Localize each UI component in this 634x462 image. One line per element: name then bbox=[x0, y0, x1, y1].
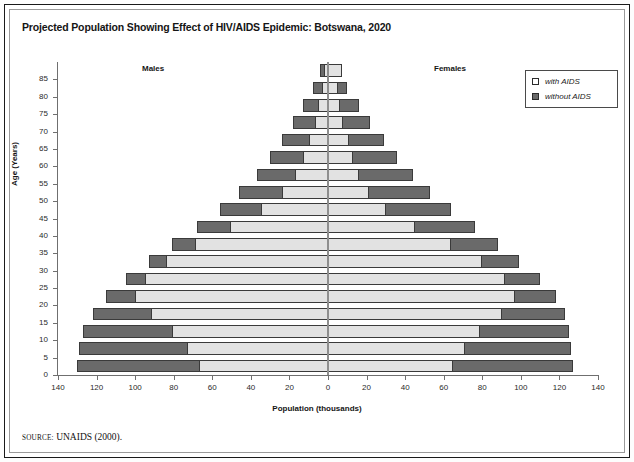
y-tick-label: 30 bbox=[22, 267, 48, 275]
y-tick-mark bbox=[53, 340, 57, 341]
bar-male-with-aids bbox=[261, 203, 329, 216]
y-axis-title: Age (Years) bbox=[10, 142, 19, 186]
bar-female-with-aids bbox=[328, 325, 480, 338]
bar-male-with-aids bbox=[195, 238, 328, 251]
y-tick-label: 85 bbox=[22, 75, 48, 83]
bar-male-with-aids bbox=[309, 134, 328, 147]
bar-male-with-aids bbox=[282, 186, 328, 199]
y-tick-mark bbox=[53, 79, 57, 80]
x-tick-mark bbox=[328, 376, 329, 380]
bar-female-with-aids bbox=[328, 273, 505, 286]
y-tick-mark bbox=[53, 375, 57, 376]
source-text: UNAIDS (2000). bbox=[56, 432, 122, 442]
bar-male-with-aids bbox=[172, 325, 328, 338]
legend-swatch-without-aids-icon bbox=[532, 93, 539, 100]
x-tick-mark bbox=[521, 376, 522, 380]
x-tick-label: 80 bbox=[467, 383, 497, 392]
x-tick-label: 140 bbox=[583, 383, 613, 392]
y-tick-label: 45 bbox=[22, 215, 48, 223]
y-tick-label: 40 bbox=[22, 232, 48, 240]
x-tick-label: 60 bbox=[197, 383, 227, 392]
y-tick-mark bbox=[53, 236, 57, 237]
x-tick-label: 100 bbox=[506, 383, 536, 392]
bar-male-with-aids bbox=[151, 308, 328, 321]
y-tick-mark bbox=[53, 132, 57, 133]
y-tick-label: 80 bbox=[22, 93, 48, 101]
x-tick-mark bbox=[598, 376, 599, 380]
x-tick-mark bbox=[367, 376, 368, 380]
y-tick-mark bbox=[53, 288, 57, 289]
y-tick-label: 35 bbox=[22, 249, 48, 257]
y-tick-mark bbox=[53, 97, 57, 98]
chart-title: Projected Population Showing Effect of H… bbox=[22, 21, 391, 33]
x-tick-label: 140 bbox=[43, 383, 73, 392]
x-tick-label: 100 bbox=[120, 383, 150, 392]
y-tick-mark bbox=[53, 149, 57, 150]
x-tick-mark bbox=[251, 376, 252, 380]
x-tick-label: 60 bbox=[429, 383, 459, 392]
bar-female-with-aids bbox=[328, 186, 369, 199]
source-note: SOURCE: UNAIDS (2000). bbox=[22, 432, 122, 442]
bar-female-with-aids bbox=[328, 134, 349, 147]
bar-male-with-aids bbox=[145, 273, 328, 286]
y-tick-mark bbox=[53, 201, 57, 202]
x-tick-label: 80 bbox=[159, 383, 189, 392]
x-tick-label: 120 bbox=[544, 383, 574, 392]
legend-label-with-aids: with AIDS bbox=[545, 77, 580, 86]
x-tick-mark bbox=[559, 376, 560, 380]
source-keyword: SOURCE: bbox=[22, 434, 54, 442]
y-tick-label: 25 bbox=[22, 284, 48, 292]
y-tick-mark bbox=[53, 253, 57, 254]
x-tick-mark bbox=[58, 376, 59, 380]
x-tick-mark bbox=[212, 376, 213, 380]
figure-page: Projected Population Showing Effect of H… bbox=[0, 0, 634, 462]
y-tick-label: 15 bbox=[22, 319, 48, 327]
bar-male-with-aids bbox=[295, 169, 328, 182]
y-tick-mark bbox=[53, 184, 57, 185]
bar-male-with-aids bbox=[230, 221, 328, 234]
x-tick-mark bbox=[97, 376, 98, 380]
bar-male-with-aids bbox=[166, 255, 328, 268]
x-tick-label: 0 bbox=[313, 383, 343, 392]
y-tick-label: 55 bbox=[22, 180, 48, 188]
bar-female-with-aids bbox=[328, 82, 338, 95]
bar-female-with-aids bbox=[328, 203, 386, 216]
y-tick-label: 5 bbox=[22, 354, 48, 362]
bar-female-with-aids bbox=[328, 99, 340, 112]
center-axis-line bbox=[327, 62, 329, 375]
x-tick-mark bbox=[289, 376, 290, 380]
y-tick-label: 50 bbox=[22, 197, 48, 205]
bar-female-with-aids bbox=[328, 255, 482, 268]
x-tick-label: 40 bbox=[390, 383, 420, 392]
y-tick-mark bbox=[53, 271, 57, 272]
bar-male-with-aids bbox=[315, 116, 329, 129]
x-tick-mark bbox=[405, 376, 406, 380]
y-tick-label: 65 bbox=[22, 145, 48, 153]
y-tick-label: 10 bbox=[22, 336, 48, 344]
bar-female-with-aids bbox=[328, 360, 453, 373]
legend-item-with-aids: with AIDS bbox=[532, 77, 580, 86]
bar-female-with-aids bbox=[328, 308, 502, 321]
x-tick-label: 120 bbox=[82, 383, 112, 392]
bar-female-with-aids bbox=[328, 169, 359, 182]
y-tick-label: 0 bbox=[22, 371, 48, 379]
bar-female-with-aids bbox=[328, 290, 515, 303]
bar-female-with-aids bbox=[328, 238, 451, 251]
y-tick-label: 20 bbox=[22, 301, 48, 309]
bar-female-with-aids bbox=[328, 64, 342, 77]
x-tick-mark bbox=[482, 376, 483, 380]
y-tick-label: 75 bbox=[22, 110, 48, 118]
bar-male-with-aids bbox=[303, 151, 328, 164]
bar-female-with-aids bbox=[328, 116, 343, 129]
bar-male-with-aids bbox=[135, 290, 328, 303]
x-tick-mark bbox=[174, 376, 175, 380]
legend-item-without-aids: without AIDS bbox=[532, 92, 591, 101]
y-tick-mark bbox=[53, 358, 57, 359]
y-tick-mark bbox=[53, 305, 57, 306]
y-tick-mark bbox=[53, 323, 57, 324]
y-tick-mark bbox=[53, 166, 57, 167]
bar-female-with-aids bbox=[328, 221, 415, 234]
y-tick-mark bbox=[53, 219, 57, 220]
y-tick-label: 60 bbox=[22, 162, 48, 170]
x-tick-mark bbox=[135, 376, 136, 380]
